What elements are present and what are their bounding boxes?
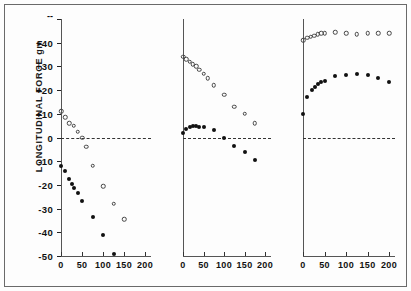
data-point-filled — [333, 74, 337, 78]
x-tick-mark — [145, 252, 146, 256]
x-tick-mark — [325, 252, 326, 256]
data-point-open — [365, 31, 370, 36]
x-tick-label: 100 — [216, 260, 232, 270]
y-tick-label: -30 — [38, 203, 53, 214]
panel-x-axis-line — [61, 256, 151, 257]
y-tick-label: +40 — [36, 37, 53, 48]
y-tick-label: +10 — [36, 108, 53, 119]
data-point-filled — [112, 252, 116, 256]
x-tick-label: 100 — [338, 260, 354, 270]
data-point-open — [322, 31, 327, 36]
figure-container: LONGITUDINAL FORCE gm +40+30+20+100-10-2… — [0, 0, 411, 291]
data-point-filled — [72, 186, 76, 190]
y-tick-label: -20 — [38, 179, 53, 190]
data-point-open — [201, 71, 206, 76]
x-tick-mark — [224, 252, 225, 256]
data-point-filled — [212, 128, 216, 132]
panel-x-axis-line — [183, 256, 271, 257]
data-point-filled — [101, 233, 105, 237]
figure-frame: LONGITUDINAL FORCE gm +40+30+20+100-10-2… — [4, 4, 407, 287]
data-point-filled — [222, 136, 226, 140]
x-tick-label: 0 — [180, 260, 185, 270]
data-point-open — [59, 109, 64, 114]
x-tick-label: 100 — [95, 260, 111, 270]
data-point-filled — [376, 76, 380, 80]
data-point-filled — [202, 125, 206, 129]
x-tick-mark — [389, 252, 390, 256]
x-tick-label: 50 — [198, 260, 209, 270]
x-tick-mark — [204, 252, 205, 256]
data-point-open — [232, 104, 237, 109]
panel-x-axis-line — [303, 256, 395, 257]
data-point-open — [63, 115, 68, 120]
data-point-filled — [76, 191, 80, 195]
data-point-open — [84, 145, 89, 150]
data-point-open — [111, 202, 116, 207]
x-tick-label: 0 — [58, 260, 63, 270]
zero-reference-line — [303, 138, 395, 139]
data-point-open — [90, 164, 95, 169]
x-tick-label: 50 — [319, 260, 330, 270]
data-point-open — [205, 76, 210, 81]
x-tick-mark — [61, 252, 62, 256]
x-tick-label: 200 — [381, 260, 397, 270]
y-tick-label: -50 — [38, 251, 53, 262]
data-point-open — [122, 217, 127, 222]
data-point-filled — [67, 177, 71, 181]
x-tick-mark — [245, 252, 246, 256]
data-point-filled — [243, 150, 247, 154]
x-tick-mark — [124, 252, 125, 256]
x-tick-label: 150 — [360, 260, 376, 270]
data-point-open — [242, 112, 247, 117]
x-tick-mark — [183, 252, 184, 256]
y-axis-top-dash: -- — [47, 11, 53, 21]
zero-reference-line — [183, 138, 271, 139]
data-point-open — [71, 123, 76, 128]
x-tick-mark — [103, 252, 104, 256]
data-point-open — [387, 31, 392, 36]
data-point-open — [355, 32, 360, 37]
x-tick-label: 0 — [300, 260, 305, 270]
data-point-filled — [59, 164, 63, 168]
data-point-open — [80, 135, 85, 140]
data-point-filled — [63, 169, 67, 173]
x-tick-label: 150 — [237, 260, 253, 270]
data-point-open — [212, 83, 217, 88]
x-tick-mark — [368, 252, 369, 256]
data-point-open — [76, 129, 81, 134]
zero-reference-line — [61, 138, 151, 139]
x-tick-label: 200 — [137, 260, 153, 270]
data-point-filled — [366, 73, 370, 77]
data-point-filled — [181, 131, 185, 135]
data-point-filled — [70, 182, 74, 186]
x-tick-mark — [265, 252, 266, 256]
x-tick-label: 150 — [116, 260, 132, 270]
data-point-filled — [323, 79, 327, 83]
data-point-open — [344, 31, 349, 36]
data-point-filled — [387, 80, 391, 84]
x-tick-label: 200 — [257, 260, 273, 270]
x-tick-mark — [303, 252, 304, 256]
data-point-filled — [355, 72, 359, 76]
y-tick-label: -10 — [38, 156, 53, 167]
data-point-open — [101, 184, 106, 189]
x-tick-label: 50 — [77, 260, 88, 270]
data-point-open — [333, 30, 338, 35]
x-tick-mark — [82, 252, 83, 256]
data-point-open — [222, 93, 227, 98]
data-point-filled — [253, 158, 257, 162]
data-point-filled — [344, 73, 348, 77]
data-point-filled — [91, 215, 95, 219]
data-point-filled — [305, 95, 309, 99]
data-point-filled — [232, 144, 236, 148]
y-tick-label: +20 — [36, 85, 53, 96]
x-tick-mark — [346, 252, 347, 256]
data-point-filled — [80, 199, 84, 203]
data-point-filled — [301, 112, 305, 116]
data-point-filled — [310, 88, 314, 92]
y-tick-label: 0 — [47, 132, 53, 143]
y-tick-label: -40 — [38, 227, 53, 238]
y-tick-label: +30 — [36, 61, 53, 72]
data-point-open — [376, 31, 381, 36]
data-point-open — [253, 121, 258, 126]
